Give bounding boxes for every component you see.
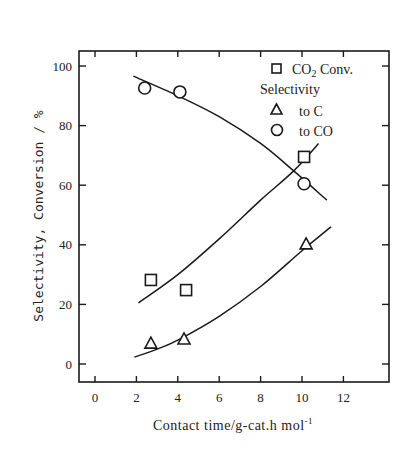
x-tick-label: 4 [175, 390, 182, 405]
y-tick-label: 100 [53, 59, 73, 74]
legend-to-co-label: to CO [299, 124, 333, 139]
x-tick-label: 10 [296, 390, 309, 405]
legend: CO2 Conv. Selectivity to C to CO [260, 62, 353, 139]
legend-to-c-label: to C [299, 104, 323, 119]
axis-ticks: 024681012020406080100 [53, 51, 390, 405]
circle-marker-icon [174, 86, 186, 98]
x-tick-label: 8 [257, 390, 264, 405]
plot-frame [79, 51, 389, 382]
x-tick-label: 0 [92, 390, 99, 405]
y-tick-label: 20 [59, 297, 72, 312]
y-tick-label: 40 [59, 237, 72, 252]
y-tick-label: 0 [66, 357, 73, 372]
x-axis-label: Contact time/g-cat.h mol-1 [153, 416, 313, 433]
legend-circle-icon [272, 125, 283, 136]
x-tick-label: 12 [337, 390, 350, 405]
legend-square-icon [272, 64, 281, 73]
legend-selectivity-heading: Selectivity [260, 82, 320, 97]
y-tick-label: 60 [59, 178, 72, 193]
x-tick-label: 2 [133, 390, 140, 405]
triangle-marker-icon [145, 337, 157, 348]
y-tick-label: 80 [59, 118, 72, 133]
data-markers [139, 82, 312, 348]
circle-marker-icon [298, 178, 310, 190]
square-marker-icon [145, 274, 156, 285]
fit-curve [138, 143, 318, 302]
square-marker-icon [181, 285, 192, 296]
chart: 024681012020406080100 CO2 Conv. Selectiv… [0, 0, 412, 463]
legend-co2-label: CO2 Conv. [292, 62, 353, 79]
circle-marker-icon [139, 82, 151, 94]
x-tick-label: 6 [216, 390, 223, 405]
legend-triangle-icon [271, 104, 282, 114]
square-marker-icon [299, 151, 310, 162]
y-axis-label: Selectivity, Conversion / % [31, 110, 46, 321]
